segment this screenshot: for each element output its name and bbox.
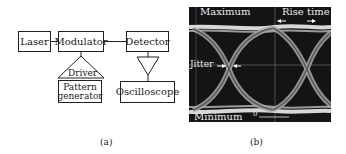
detector-label: Detector: [125, 37, 169, 47]
modulator-detector-link: [104, 41, 126, 42]
laser-label: Laser: [20, 37, 48, 47]
pattern-generator-block: Pattern generator: [58, 80, 102, 103]
detector-block: Detector: [126, 31, 169, 52]
jitter-label: Jitter: [190, 59, 213, 69]
zero-label: 0: [253, 110, 257, 118]
modulator-block: Modulator: [58, 31, 104, 52]
minimum-label: Minimum: [194, 111, 242, 122]
driver-label: Driver: [68, 68, 97, 78]
maximum-label: Maximum: [200, 7, 250, 17]
oscilloscope-label: Oscilloscope: [116, 87, 180, 97]
caption-b: (b): [250, 137, 263, 147]
modulator-label: Modulator: [54, 37, 107, 47]
amplifier-triangle-icon: [136, 52, 160, 82]
pattern-generator-label-line2: generator: [57, 92, 102, 101]
rise-time-label: Rise time: [282, 7, 330, 17]
laser-block: Laser: [18, 31, 51, 52]
eye-diagram: Maximum Rise time Jitter Minimum 0: [189, 7, 331, 122]
oscilloscope-block: Oscilloscope: [120, 81, 175, 103]
caption-a: (a): [100, 137, 112, 147]
